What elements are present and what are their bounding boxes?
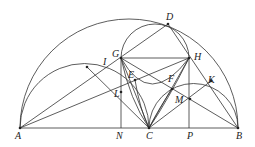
- label-B: B: [236, 131, 242, 141]
- arc-GDH: [121, 24, 189, 58]
- point-I: [86, 66, 89, 69]
- point-B: [237, 127, 240, 130]
- point-A: [19, 127, 22, 130]
- geometry-diagram: A N C P B G H D I E F K M L: [0, 0, 255, 147]
- label-D: D: [166, 12, 173, 22]
- label-K: K: [208, 75, 215, 85]
- label-L: L: [114, 89, 120, 99]
- label-N: N: [116, 131, 123, 141]
- label-F: F: [168, 74, 174, 84]
- point-L: [120, 91, 123, 94]
- label-C: C: [146, 131, 153, 141]
- label-E: E: [128, 70, 134, 80]
- point-G: [120, 57, 123, 60]
- point-H: [188, 57, 191, 60]
- label-M: M: [175, 95, 183, 105]
- semicircle-CB: [149, 84, 238, 129]
- point-C: [148, 127, 151, 130]
- point-D: [167, 23, 170, 26]
- label-G: G: [112, 49, 119, 59]
- label-A: A: [15, 131, 21, 141]
- label-H: H: [194, 52, 201, 62]
- point-F: [171, 88, 174, 91]
- label-P: P: [187, 131, 193, 141]
- point-M: [189, 98, 192, 101]
- label-I: I: [103, 57, 106, 67]
